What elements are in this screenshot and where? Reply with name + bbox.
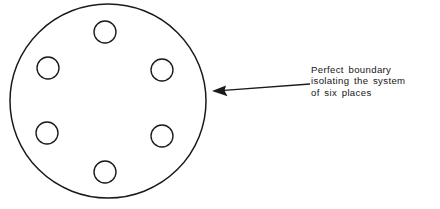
place-circle-upper-right xyxy=(151,59,173,81)
place-circle-top xyxy=(94,21,116,43)
perfect-boundary-circle xyxy=(10,4,206,198)
diagram-canvas xyxy=(0,0,440,209)
callout-text-line-3: of six places xyxy=(311,87,437,98)
place-circle-upper-left xyxy=(37,57,59,79)
figure-root: Perfect boundary isolating the system of… xyxy=(0,0,440,209)
place-circle-bottom xyxy=(94,161,116,183)
callout-text-line-2: isolating the system xyxy=(311,75,437,86)
callout-text-line-1: Perfect boundary xyxy=(311,64,437,75)
callout-leader-line xyxy=(224,84,310,90)
callout-annotation-text: Perfect boundary isolating the system of… xyxy=(311,64,437,98)
place-circle-lower-right xyxy=(151,125,173,147)
place-circle-lower-left xyxy=(36,122,58,144)
